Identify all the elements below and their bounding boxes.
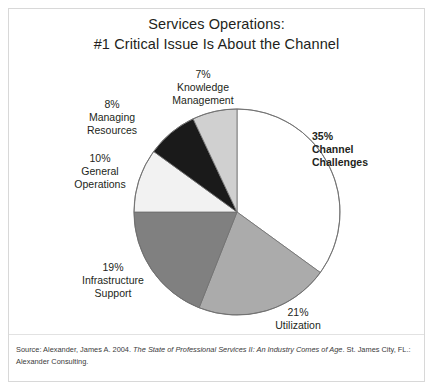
slice-name-channel-challenges-line-2: Challenges	[312, 156, 432, 169]
slice-percent-utilization: 21%	[238, 306, 358, 319]
slice-percent-channel-challenges: 35%	[312, 130, 432, 143]
slice-name-general-operations-line-2: Operations	[40, 178, 160, 191]
slice-name-infrastructure-support-line-2: Support	[48, 287, 178, 300]
slice-name-managing-resources-line-2: Resources	[52, 124, 172, 137]
slide-canvas: Services Operations: #1 Critical Issue I…	[0, 0, 433, 390]
source-italic-title: The State of Professional Services II: A…	[133, 345, 342, 354]
slice-percent-general-operations: 10%	[40, 152, 160, 165]
slice-percent-managing-resources: 8%	[52, 98, 172, 111]
slice-label-infrastructure-support: 19% Infrastructure Support	[48, 261, 178, 300]
source-prefix: Source: Alexander, James A. 2004.	[16, 345, 133, 354]
slice-name-channel-challenges-line-1: Channel	[312, 143, 432, 156]
slice-label-channel-challenges: 35% Channel Challenges	[312, 130, 432, 169]
slice-name-infrastructure-support-line-1: Infrastructure	[48, 274, 178, 287]
source-citation: Source: Alexander, James A. 2004. The St…	[16, 344, 418, 367]
slice-name-utilization-line-1: Utilization	[238, 319, 358, 332]
slice-label-managing-resources: 8% Managing Resources	[52, 98, 172, 137]
slice-name-knowledge-management-line-1: Knowledge	[128, 81, 278, 94]
pie-chart: 7% Knowledge Management 8% Managing Reso…	[0, 0, 433, 345]
slice-label-utilization: 21% Utilization	[238, 306, 358, 332]
slice-percent-knowledge-management: 7%	[128, 68, 278, 81]
slice-label-general-operations: 10% General Operations	[40, 152, 160, 191]
slice-name-general-operations-line-1: General	[40, 165, 160, 178]
slice-name-managing-resources-line-1: Managing	[52, 111, 172, 124]
slice-percent-infrastructure-support: 19%	[48, 261, 178, 274]
source-divider	[9, 334, 424, 335]
